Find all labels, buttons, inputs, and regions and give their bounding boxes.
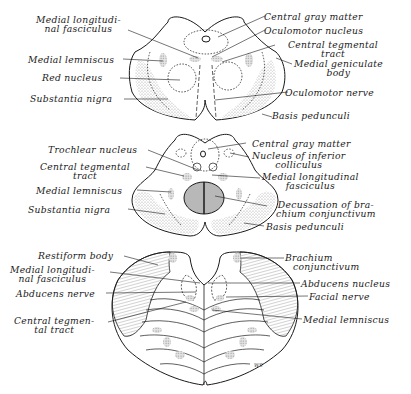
- label-basis-pedunculi: Basis pedunculi: [272, 111, 350, 120]
- label-oculomotor-nucleus: Oculomotor nucleus: [264, 26, 363, 35]
- label-line: tal tract: [14, 325, 95, 334]
- label-medial-lemniscus: Medial lemniscus: [28, 55, 114, 64]
- label-basis-pedunculi-2: Basis pedunculi: [266, 222, 344, 231]
- label-oculomotor-nerve: Oculomotor nerve: [285, 88, 374, 97]
- label-medial-longitudinal-fasciculus: Medial longitudi- nal fasciculus: [36, 15, 121, 33]
- label-line: conjunctivum: [285, 262, 359, 271]
- label-central-gray-matter: Central gray matter: [264, 12, 363, 21]
- label-central-tegmental-tract-2: Central tegmental tract: [40, 162, 130, 180]
- label-substantia-nigra: Substantia nigra: [30, 94, 112, 103]
- label-decussation-brachium-conjunctivum: Decussation of bra- chium conjunctivum: [276, 200, 376, 218]
- label-nucleus-inferior-colliculus: Nucleus of inferior colliculus: [252, 151, 346, 169]
- artist-signature: WS: [254, 362, 263, 368]
- label-medial-lemniscus-3: Medial lemniscus: [303, 315, 389, 324]
- label-central-tegmental-tract-3: Central tegmen- tal tract: [14, 316, 95, 334]
- label-line: colliculus: [252, 160, 346, 169]
- label-substantia-nigra-2: Substantia nigra: [28, 205, 110, 214]
- label-abducens-nucleus: Abducens nucleus: [301, 279, 390, 288]
- label-medial-lemniscus-2: Medial lemniscus: [36, 186, 122, 195]
- label-red-nucleus: Red nucleus: [42, 73, 102, 82]
- label-central-gray-matter-2: Central gray matter: [252, 139, 351, 148]
- label-abducens-nerve: Abducens nerve: [16, 289, 95, 298]
- label-line: tract: [40, 171, 130, 180]
- label-central-tegmental-tract: Central tegmental tract: [288, 40, 378, 58]
- label-medial-geniculate-body: Medial geniculate body: [294, 59, 383, 77]
- label-medial-longitudinal-fasciculus-3: Medial longitudi- nal fasciculus: [10, 265, 95, 283]
- section-3-pons: [106, 252, 308, 385]
- label-line: body: [294, 68, 383, 77]
- label-facial-nerve: Facial nerve: [309, 292, 370, 301]
- label-line: chium conjunctivum: [276, 209, 376, 218]
- label-line: fasciculus: [262, 181, 359, 190]
- label-medial-longitudinal-fasciculus-2: Medial longitudinal fasciculus: [262, 172, 359, 190]
- label-trochlear-nucleus: Trochlear nucleus: [48, 145, 137, 154]
- label-brachium-conjunctivum: Brachium conjunctivum: [285, 253, 359, 271]
- label-line: nal fasciculus: [36, 24, 121, 33]
- label-restiform-body: Restiform body: [38, 251, 113, 260]
- label-line: nal fasciculus: [10, 274, 95, 283]
- label-line: tract: [288, 49, 378, 58]
